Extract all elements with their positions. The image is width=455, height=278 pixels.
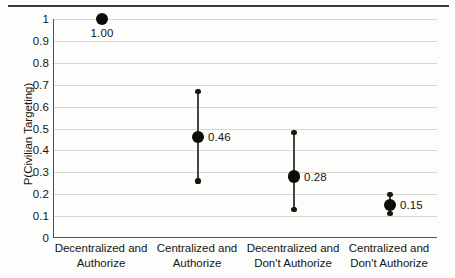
x-label-line-1: Centralized and <box>349 242 430 254</box>
x-label-line-2: Don't Authorize <box>333 256 445 271</box>
x-label-line-1: Decentralized and <box>55 242 148 254</box>
chart-figure: 1.000.460.280.15 00.10.20.30.40.50.60.70… <box>0 0 455 278</box>
x-label-line-1: Decentralized and <box>247 242 340 254</box>
x-label-line-1: Centralized and <box>157 242 238 254</box>
x-axis-category-labels: Decentralized andAuthorizeCentralized an… <box>53 241 437 277</box>
y-axis-tick-label: 0 <box>4 232 49 244</box>
y-axis-ticks: 00.10.20.30.40.50.60.70.80.91 <box>0 0 455 278</box>
y-axis-title: P(Civilian Targeting) <box>22 44 34 224</box>
x-axis-category-label: Centralized andDon't Authorize <box>333 241 445 270</box>
y-axis-tick-label: 1 <box>4 13 49 25</box>
